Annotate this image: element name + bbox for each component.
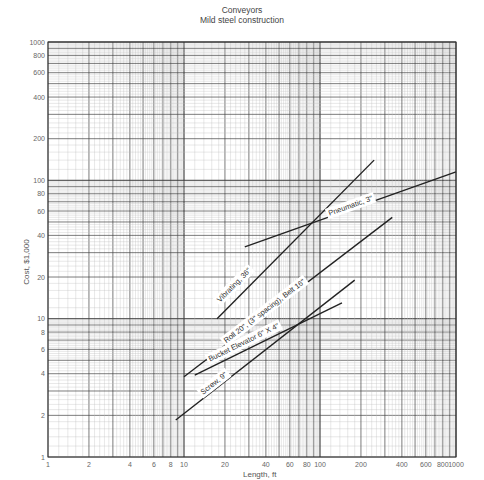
y-tick-label: 100 (33, 177, 45, 184)
y-tick-label: 40 (37, 232, 45, 239)
x-tick-label: 20 (221, 461, 229, 468)
y-tick-label: 8 (41, 329, 45, 336)
grid (48, 42, 456, 457)
x-tick-label: 80 (303, 461, 311, 468)
log-log-chart: 1246810204060801002004006008001000124681… (0, 0, 484, 480)
x-tick-label: 800 (437, 461, 449, 468)
y-tick-label: 20 (37, 274, 45, 281)
y-tick-label: 200 (33, 135, 45, 142)
series-line (176, 280, 355, 420)
x-tick-label: 600 (420, 461, 432, 468)
x-tick-label: 40 (262, 461, 270, 468)
y-tick-label: 4 (41, 370, 45, 377)
x-tick-label: 2 (87, 461, 91, 468)
x-tick-label: 400 (396, 461, 408, 468)
x-tick-label: 100 (314, 461, 326, 468)
y-tick-label: 1000 (29, 39, 45, 46)
y-tick-label: 1 (41, 454, 45, 461)
x-tick-label: 1000 (448, 461, 464, 468)
x-tick-label: 8 (169, 461, 173, 468)
plot-frame (48, 42, 456, 457)
y-tick-label: 10 (37, 315, 45, 322)
y-tick-label: 80 (37, 190, 45, 197)
y-tick-label: 600 (33, 69, 45, 76)
y-tick-label: 60 (37, 208, 45, 215)
x-tick-label: 4 (128, 461, 132, 468)
y-tick-label: 2 (41, 412, 45, 419)
x-tick-label: 200 (355, 461, 367, 468)
x-tick-label: 6 (152, 461, 156, 468)
y-tick-label: 6 (41, 346, 45, 353)
x-tick-label: 60 (286, 461, 294, 468)
line-labels: Vibrating, 36"Pneumatic, 3"Roll 20", (3"… (196, 192, 376, 399)
y-tick-label: 400 (33, 94, 45, 101)
svg-text:Pneumatic, 3": Pneumatic, 3" (327, 194, 374, 218)
x-tick-label: 10 (180, 461, 188, 468)
x-tick-label: 1 (46, 461, 50, 468)
y-tick-label: 800 (33, 52, 45, 59)
